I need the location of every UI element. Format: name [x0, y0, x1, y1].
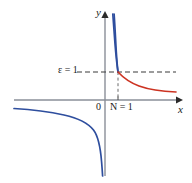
origin-label: 0	[96, 102, 101, 112]
N-annotation-label: N = 1	[110, 102, 133, 112]
curve-branch-quadrant-III	[14, 109, 103, 177]
y-axis-label: y	[96, 7, 101, 18]
y-axis-arrow-icon	[101, 11, 108, 18]
curve-branch-highlight-tail	[118, 72, 176, 92]
x-axis-label: x	[178, 104, 183, 115]
limit-at-infinity-figure: y x 0 ε = 1 N = 1	[0, 0, 192, 183]
plot-canvas	[0, 0, 192, 183]
epsilon-annotation-label: ε = 1	[58, 65, 78, 75]
